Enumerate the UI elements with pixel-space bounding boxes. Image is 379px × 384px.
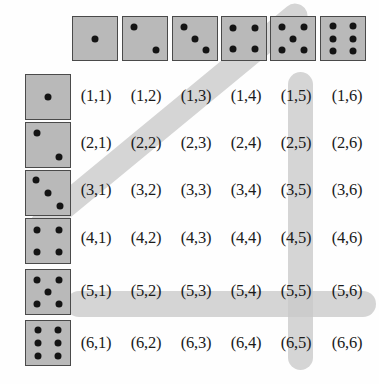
outcome-cell: (2,4) <box>221 133 271 153</box>
die-face-3-column-header <box>172 16 218 61</box>
die-pip <box>57 203 64 210</box>
die-pip <box>55 340 62 347</box>
outcome-cell: (3,6) <box>322 180 372 200</box>
die-pip <box>349 23 356 30</box>
die-pip <box>34 326 41 333</box>
die-face-1-column-header <box>72 16 118 61</box>
die-pip <box>330 35 337 42</box>
die-pip <box>55 326 62 333</box>
die-pip <box>251 46 258 53</box>
die-pip <box>33 276 40 283</box>
die-pip <box>34 226 41 233</box>
outcome-cell: (3,2) <box>121 180 171 200</box>
die-pip <box>301 46 308 53</box>
die-pip <box>45 289 52 296</box>
outcome-cell: (6,6) <box>322 333 372 353</box>
outcome-cell: (5,6) <box>322 281 372 301</box>
outcome-cell: (5,4) <box>221 281 271 301</box>
die-pip <box>45 94 52 101</box>
die-pip <box>45 190 52 197</box>
die-face-4-column-header <box>221 16 267 61</box>
die-pip <box>56 153 63 160</box>
outcome-cell: (5,1) <box>71 281 121 301</box>
outcome-cell: (5,5) <box>271 281 321 301</box>
die-pip <box>203 47 210 54</box>
die-pip <box>349 47 356 54</box>
die-pip <box>56 226 63 233</box>
die-face-2-row-header <box>25 122 71 168</box>
outcome-cell: (6,1) <box>71 333 121 353</box>
die-face-2-column-header <box>122 16 168 61</box>
die-pip <box>33 130 40 137</box>
outcome-cell: (1,6) <box>322 86 372 106</box>
die-face-6-column-header <box>320 16 366 61</box>
die-pip <box>56 301 63 308</box>
die-pip <box>290 35 297 42</box>
die-face-5-column-header <box>270 16 316 61</box>
outcome-cell: (3,5) <box>271 180 321 200</box>
dice-sample-space-figure: (1,1)(1,2)(1,3)(1,4)(1,5)(1,6)(2,1)(2,2)… <box>0 0 379 384</box>
die-pip <box>131 24 138 31</box>
die-face-4-row-header <box>25 218 71 264</box>
outcome-cell: (4,3) <box>171 228 221 248</box>
outcome-cell: (3,1) <box>71 180 121 200</box>
outcome-cell: (4,1) <box>71 228 121 248</box>
die-pip <box>33 301 40 308</box>
outcome-cell: (5,3) <box>171 281 221 301</box>
outcome-cell: (3,3) <box>171 180 221 200</box>
outcome-cell: (3,4) <box>221 180 271 200</box>
die-pip <box>279 24 286 31</box>
outcome-cell: (6,2) <box>121 333 171 353</box>
outcome-cell: (4,4) <box>221 228 271 248</box>
die-pip <box>349 35 356 42</box>
column-5-highlight <box>288 72 313 370</box>
outcome-cell: (4,6) <box>322 228 372 248</box>
die-pip <box>230 46 237 53</box>
outcome-cell: (1,5) <box>271 86 321 106</box>
die-face-5-row-header <box>25 269 71 315</box>
die-pip <box>192 35 199 42</box>
die-pip <box>330 23 337 30</box>
die-face-1-row-header <box>25 74 71 120</box>
outcome-cell: (1,4) <box>221 86 271 106</box>
outcome-cell: (2,6) <box>322 133 372 153</box>
die-pip <box>34 249 41 256</box>
die-face-6-row-header <box>25 320 71 366</box>
outcome-cell: (2,3) <box>171 133 221 153</box>
outcome-cell: (6,4) <box>221 333 271 353</box>
outcome-cell: (1,1) <box>71 86 121 106</box>
die-pip <box>230 24 237 31</box>
die-pip <box>56 276 63 283</box>
die-pip <box>180 23 187 30</box>
outcome-cell: (1,3) <box>171 86 221 106</box>
outcome-cell: (5,2) <box>121 281 171 301</box>
die-pip <box>301 24 308 31</box>
outcome-cell: (1,2) <box>121 86 171 106</box>
die-pip <box>152 46 159 53</box>
die-pip <box>34 340 41 347</box>
outcome-cell: (6,3) <box>171 333 221 353</box>
outcome-cell: (2,1) <box>71 133 121 153</box>
die-face-3-row-header <box>25 170 71 216</box>
die-pip <box>330 47 337 54</box>
outcome-cell: (4,5) <box>271 228 321 248</box>
die-pip <box>56 249 63 256</box>
outcome-cell: (6,5) <box>271 333 321 353</box>
outcome-cell: (2,5) <box>271 133 321 153</box>
die-pip <box>34 353 41 360</box>
die-pip <box>251 24 258 31</box>
die-pip <box>32 176 39 183</box>
die-pip <box>55 353 62 360</box>
outcome-cell: (4,2) <box>121 228 171 248</box>
outcome-cell: (2,2) <box>121 133 171 153</box>
die-pip <box>279 46 286 53</box>
die-pip <box>92 35 99 42</box>
